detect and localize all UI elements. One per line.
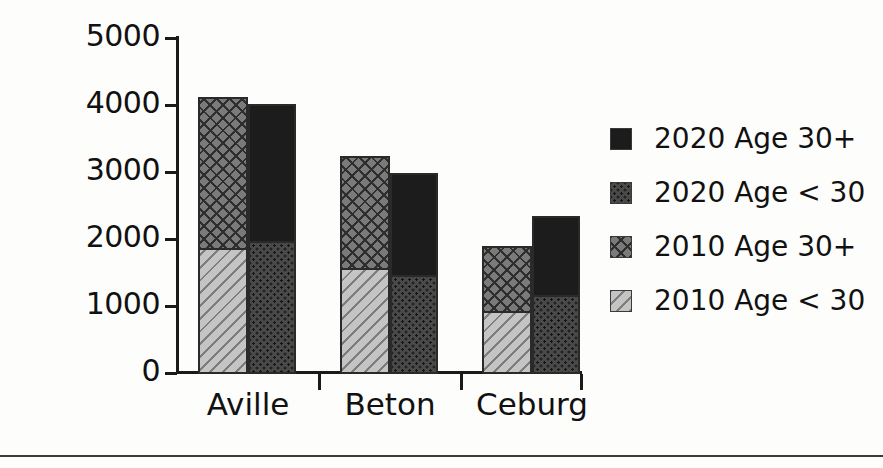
- y-tick-label: 5000: [40, 21, 160, 51]
- bar-segment-2020-age30plus: [250, 106, 294, 242]
- y-tick-mark: [165, 305, 177, 308]
- y-tick-mark: [165, 238, 177, 241]
- legend-item-2010-age-under-30[interactable]: 2010 Age < 30: [610, 274, 865, 328]
- bar-ceburg-2020: [532, 216, 580, 374]
- legend-item-label: 2010 Age 30+: [654, 233, 856, 261]
- y-tick-label: 2000: [40, 222, 160, 252]
- legend-item-label: 2010 Age < 30: [654, 287, 865, 315]
- y-tick-mark: [165, 37, 177, 40]
- bar-aville-2020: [248, 104, 296, 374]
- bar-segment-divider: [484, 311, 530, 313]
- legend-item-2020-age-under-30[interactable]: 2020 Age < 30: [610, 166, 865, 220]
- bar-segment-divider: [534, 295, 578, 297]
- bar-segment-2010-age30plus: [484, 248, 530, 312]
- bar-beton-2020: [390, 173, 438, 374]
- legend-item-label: 2020 Age < 30: [654, 179, 865, 207]
- bar-beton-2010: [340, 156, 390, 374]
- legend-swatch-icon: [610, 236, 632, 258]
- bar-chart: 5000 4000 3000 2000 1000 0 Aville: [0, 0, 883, 468]
- x-category-label-ceburg: Ceburg: [462, 389, 602, 420]
- y-tick-label: 0: [40, 356, 160, 386]
- bar-segment-divider: [392, 275, 436, 277]
- x-category-label-beton: Beton: [320, 389, 460, 420]
- y-tick-mark: [165, 104, 177, 107]
- bar-segment-2010-age30plus: [200, 99, 246, 249]
- legend-swatch-icon: [610, 128, 632, 150]
- y-tick-mark: [165, 372, 177, 375]
- bar-segment-2010-ageunder30: [200, 249, 246, 374]
- y-tick-label: 3000: [40, 155, 160, 185]
- bar-aville-2010: [198, 97, 248, 374]
- legend-item-2020-age-30-plus[interactable]: 2020 Age 30+: [610, 112, 865, 166]
- legend-swatch-icon: [610, 290, 632, 312]
- legend-item-2010-age-30-plus[interactable]: 2010 Age 30+: [610, 220, 865, 274]
- x-tick-separator-2: [460, 374, 463, 390]
- bar-segment-2020-age30plus: [534, 218, 578, 296]
- bar-segment-2010-age30plus: [342, 158, 388, 269]
- page-divider-rule: [0, 455, 883, 457]
- bar-segment-2020-age30plus: [392, 175, 436, 276]
- bar-ceburg-2010: [482, 246, 532, 374]
- y-tick-label: 4000: [40, 88, 160, 118]
- legend-item-label: 2020 Age 30+: [654, 125, 856, 153]
- bar-segment-2010-ageunder30: [484, 312, 530, 374]
- chart-legend: 2020 Age 30+ 2020 Age < 30 2010 Age 30+ …: [610, 112, 865, 328]
- x-tick-separator-1: [318, 374, 321, 390]
- x-category-label-aville: Aville: [178, 389, 318, 420]
- y-axis-line: [176, 36, 179, 374]
- y-tick-label: 1000: [40, 289, 160, 319]
- y-tick-mark: [165, 171, 177, 174]
- bar-segment-2020-ageunder30: [392, 276, 436, 374]
- bar-segment-divider: [200, 248, 246, 250]
- bar-segment-2020-ageunder30: [250, 242, 294, 374]
- bar-segment-divider: [250, 241, 294, 243]
- bar-segment-2010-ageunder30: [342, 269, 388, 374]
- bar-segment-divider: [342, 268, 388, 270]
- bar-segment-2020-ageunder30: [534, 296, 578, 374]
- legend-swatch-icon: [610, 182, 632, 204]
